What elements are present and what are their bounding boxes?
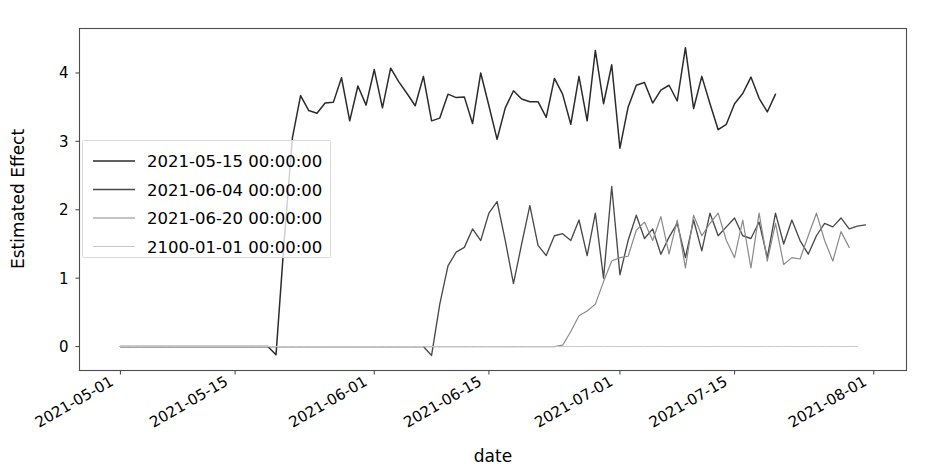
x-tick-label: 2021-07-15	[646, 372, 731, 431]
legend-label-3: 2100-01-01 00:00:00	[147, 238, 322, 257]
y-axis-label: Estimated Effect	[8, 129, 28, 270]
y-tick-label: 3	[59, 133, 69, 151]
x-tick-label: 2021-06-01	[286, 372, 371, 431]
x-tick-label: 2021-07-01	[531, 372, 616, 431]
x-axis-ticks: 2021-05-012021-05-152021-06-012021-06-15…	[32, 371, 874, 432]
legend-label-0: 2021-05-15 00:00:00	[147, 152, 322, 171]
y-tick-label: 4	[59, 64, 69, 82]
x-tick-label: 2021-05-15	[147, 372, 232, 431]
line-chart: 01234 2021-05-012021-05-152021-06-012021…	[0, 0, 949, 472]
y-tick-label: 0	[59, 338, 69, 356]
x-tick-label: 2021-06-15	[400, 372, 485, 431]
y-tick-label: 2	[59, 201, 69, 219]
y-tick-label: 1	[59, 270, 69, 288]
legend-label-1: 2021-06-04 00:00:00	[147, 181, 322, 200]
x-axis-label: date	[474, 446, 512, 466]
y-axis-ticks: 01234	[59, 64, 80, 356]
legend-label-2: 2021-06-20 00:00:00	[147, 209, 322, 228]
figure-canvas: 01234 2021-05-012021-05-152021-06-012021…	[0, 0, 949, 472]
chart-legend[interactable]: 2021-05-15 00:00:002021-06-04 00:00:0020…	[83, 141, 331, 258]
x-tick-label: 2021-05-01	[32, 372, 117, 431]
x-tick-label: 2021-08-01	[785, 372, 870, 431]
